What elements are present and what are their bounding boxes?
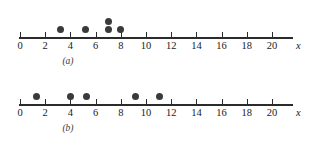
axis-tick (222, 99, 223, 104)
axis-tick (70, 32, 71, 37)
axis-tick-label: 14 (186, 40, 206, 51)
axis-tick-label: 12 (161, 107, 181, 118)
axis-tick (272, 99, 273, 104)
axis-tick-label: 20 (262, 107, 282, 118)
axis-tick (247, 32, 248, 37)
data-dot (57, 26, 64, 33)
axis-tick-label: 4 (60, 40, 80, 51)
axis-tick-label: 2 (35, 107, 55, 118)
data-dot (132, 93, 139, 100)
data-dot (105, 18, 112, 25)
axis-tick (196, 99, 197, 104)
number-line-axis-a (19, 37, 293, 39)
plot-area-a: 02468101214161820 x (a) (0, 0, 310, 70)
axis-tick (247, 99, 248, 104)
axis-tick (171, 99, 172, 104)
data-dot (82, 26, 89, 33)
axis-tick (146, 32, 147, 37)
data-dot (156, 93, 163, 100)
axis-tick (96, 32, 97, 37)
axis-tick (222, 32, 223, 37)
axis-tick-label: 18 (237, 107, 257, 118)
axis-tick (121, 99, 122, 104)
axis-tick-label: 16 (212, 40, 232, 51)
axis-tick (146, 99, 147, 104)
panel-caption-b: (b) (48, 123, 88, 133)
data-dot (67, 93, 74, 100)
axis-tick-label: 16 (212, 107, 232, 118)
axis-tick-label: 6 (86, 107, 106, 118)
axis-tick-label: 12 (161, 40, 181, 51)
axis-tick-label: 20 (262, 40, 282, 51)
dotplot-panel-a: 02468101214161820 x (a) (0, 0, 310, 70)
dotplot-panel-b: 02468101214161820 x (b) (0, 70, 310, 141)
data-dot (105, 26, 112, 33)
axis-tick-label: 14 (186, 107, 206, 118)
axis-tick-label: 0 (10, 40, 30, 51)
axis-tick-label: 6 (86, 40, 106, 51)
axis-tick-label: 0 (10, 107, 30, 118)
data-dot (117, 26, 124, 33)
axis-tick-label: 18 (237, 40, 257, 51)
axis-tick-label: 10 (136, 107, 156, 118)
axis-tick (20, 32, 21, 37)
number-line-axis-b (19, 104, 293, 106)
panel-caption-a: (a) (48, 56, 88, 66)
axis-tick (20, 99, 21, 104)
axis-tick-label: 8 (111, 40, 131, 51)
data-dot (83, 93, 90, 100)
data-dot (33, 93, 40, 100)
axis-tick-label: 2 (35, 40, 55, 51)
axis-tick (45, 32, 46, 37)
axis-tick-label: 4 (60, 107, 80, 118)
axis-tick (45, 99, 46, 104)
dotplot-figure: 02468101214161820 x (a) 0246810121416182… (0, 0, 310, 141)
axis-variable-label-a: x (296, 40, 301, 51)
axis-tick-label: 8 (111, 107, 131, 118)
axis-tick (171, 32, 172, 37)
axis-tick-label: 10 (136, 40, 156, 51)
plot-area-b: 02468101214161820 x (b) (0, 70, 310, 141)
axis-variable-label-b: x (296, 107, 301, 118)
axis-tick (272, 32, 273, 37)
axis-tick (96, 99, 97, 104)
axis-tick (196, 32, 197, 37)
